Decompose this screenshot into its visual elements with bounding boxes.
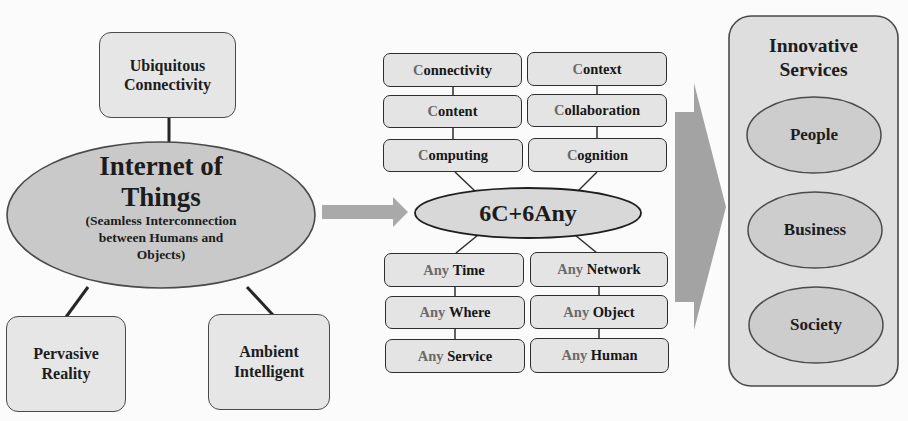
ubiquitous-connectivity-line1: Ubiquitous [124,56,211,75]
connector-bottom-right [247,287,273,315]
small-arrow-icon [322,197,408,227]
any-word: Where [449,304,491,321]
c-initial: C [567,147,577,164]
connector-any-to-center-left [456,235,478,253]
pervasive-reality-line1: Pervasive [33,344,99,364]
any-word: Service [447,348,492,365]
any-word: Human [591,347,638,364]
c-rest: ontent [438,103,477,120]
any-word: Network [587,261,641,278]
iot-subtitle-line3: Objects) [20,246,302,263]
any-prefix: Any [563,304,589,321]
any-prefix: Any [423,262,449,279]
c-initial: C [554,102,564,119]
any-word: Time [453,262,485,279]
iot-subtitle-line1: (Seamless Interconnection [20,212,302,229]
connector-c-to-center-right [577,172,597,192]
c-initial: C [418,147,428,164]
any-service-box: Any Service [385,339,525,373]
any-prefix: Any [557,261,583,278]
any-where-box: Any Where [385,296,525,329]
c-initial: C [572,61,582,78]
c-connectivity-box: Connectivity [383,53,522,87]
c-initial: C [428,103,438,120]
any-prefix: Any [418,348,444,365]
ambient-intelligent-line1: Ambient [234,342,304,362]
society-label: Society [749,315,883,335]
big-arrow-icon [675,83,726,330]
c-content-box: Content [383,95,522,128]
ubiquitous-connectivity-node: Ubiquitous Connectivity [99,32,236,118]
connector-bottom-left [66,287,88,317]
any-network-box: Any Network [530,252,668,287]
people-label: People [747,125,881,145]
c-context-box: Context [527,52,667,86]
pervasive-reality-line2: Reality [33,364,99,384]
innovative-services-title-line2: Services [729,58,898,82]
c-collaboration-box: Collaboration [527,94,667,127]
c-rest: ollaboration [564,102,640,119]
innovative-services-title-line1: Innovative [729,34,898,58]
iot-title-line2: Things [20,182,302,212]
any-prefix: Any [419,304,445,321]
iot-label: Internet of Things (Seamless Interconnec… [20,150,302,263]
c-rest: onnectivity [424,62,492,79]
any-word: Object [593,304,635,321]
pervasive-reality-node: Pervasive Reality [6,316,126,412]
ambient-intelligent-node: Ambient Intelligent [208,314,330,410]
iot-subtitle-line2: between Humans and [20,229,302,246]
c-cognition-box: Cognition [528,138,667,172]
any-time-box: Any Time [384,253,524,287]
business-label: Business [748,220,882,240]
any-prefix: Any [561,347,587,364]
c-rest: ontext [583,61,622,78]
connector-any-to-center-right [575,235,597,253]
iot-title-line1: Internet of [20,150,302,182]
six-c-six-any-label: 6C+6Any [415,199,641,227]
ambient-intelligent-line2: Intelligent [234,362,304,382]
c-computing-box: Computing [383,139,523,172]
c-rest: ognition [577,147,628,164]
ubiquitous-connectivity-line2: Connectivity [124,75,211,94]
innovative-services-title: Innovative Services [729,34,898,82]
c-rest: omputing [428,147,488,164]
any-human-box: Any Human [530,338,669,373]
c-initial: C [413,62,423,79]
connector-c-to-center-left [455,172,476,192]
any-object-box: Any Object [530,295,668,329]
